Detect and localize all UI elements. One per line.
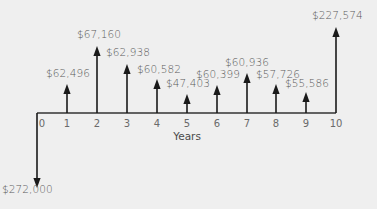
year-tick-6: 6 <box>214 118 220 129</box>
flow-label-year-6: $60,399 <box>196 68 240 80</box>
cash-flow-arrow-year-5 <box>183 94 190 113</box>
year-tick-10: 10 <box>330 118 343 129</box>
flow-label-year-1: $62,496 <box>46 67 90 79</box>
cash-flow-diagram: $272,000$62,496$67,160$62,938$60,582$47,… <box>0 0 377 209</box>
x-axis-title: Years <box>173 130 201 142</box>
cash-flow-graphic <box>0 0 377 209</box>
arrow-up-icon <box>63 84 70 94</box>
flow-label-year-0: $272,000 <box>2 183 53 195</box>
cash-flow-arrow-year-10 <box>332 27 339 113</box>
flow-label-year-3: $62,938 <box>106 46 150 58</box>
arrow-up-icon <box>93 46 100 56</box>
flow-label-year-4: $60,582 <box>137 63 181 75</box>
arrow-up-icon <box>123 64 130 74</box>
cash-flow-arrow-year-6 <box>213 85 220 113</box>
arrow-up-icon <box>243 73 250 83</box>
cash-flow-arrow-year-8 <box>272 84 279 113</box>
flow-label-year-10: $227,574 <box>312 9 363 21</box>
year-tick-5: 5 <box>184 118 190 129</box>
flow-label-year-9: $55,586 <box>285 77 329 89</box>
year-tick-4: 4 <box>154 118 160 129</box>
year-tick-3: 3 <box>124 118 130 129</box>
flow-label-year-2: $67,160 <box>77 28 121 40</box>
cash-flow-arrow-year-7 <box>243 73 250 113</box>
cash-flow-arrow-year-4 <box>153 79 160 113</box>
year-tick-0: 0 <box>39 118 45 129</box>
year-tick-1: 1 <box>64 118 70 129</box>
arrow-up-icon <box>302 92 309 102</box>
year-tick-9: 9 <box>303 118 309 129</box>
year-tick-2: 2 <box>94 118 100 129</box>
cash-flow-arrow-year-9 <box>302 92 309 113</box>
year-tick-7: 7 <box>244 118 250 129</box>
arrow-up-icon <box>213 85 220 95</box>
cash-flow-arrow-year-1 <box>63 84 70 113</box>
cash-flow-arrow-year-3 <box>123 64 130 113</box>
flow-label-year-7: $60,936 <box>225 56 269 68</box>
arrow-up-icon <box>183 94 190 104</box>
arrow-up-icon <box>332 27 339 37</box>
arrow-up-icon <box>153 79 160 89</box>
cash-flow-arrow-year-2 <box>93 46 100 113</box>
arrow-up-icon <box>272 84 279 94</box>
year-tick-8: 8 <box>273 118 279 129</box>
